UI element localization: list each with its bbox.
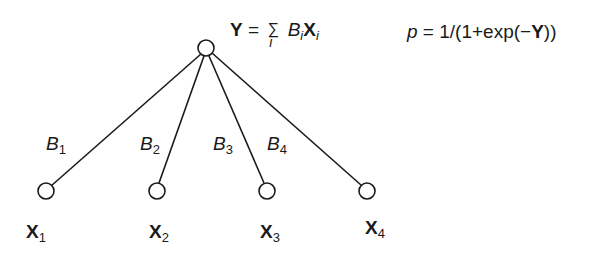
edge-b4 [212, 53, 361, 185]
edge-b2 [159, 56, 204, 183]
input-node-x2 [149, 183, 165, 199]
eq-x: X [303, 19, 316, 40]
edge-label-b2: B2 [140, 134, 160, 156]
input-node-x1 [38, 183, 54, 199]
sigma-symbol: ∑ i [266, 20, 280, 39]
sum-equation: Y = ∑ i BiXi [230, 20, 319, 42]
eq-b: B [288, 19, 301, 40]
edge-label-b1: B1 [46, 134, 66, 156]
node-label-x3: X3 [260, 222, 280, 244]
prob-equation: p = 1/(1+exp(−Y)) [407, 22, 557, 41]
eq-equals: = [248, 19, 259, 40]
input-node-x3 [259, 183, 275, 199]
prob-equals: = [423, 21, 434, 42]
edge-b1 [51, 54, 201, 186]
prob-expr-pre: 1/(1+exp(− [439, 21, 531, 42]
input-node-x4 [359, 183, 375, 199]
edge-label-b3: B3 [213, 134, 233, 156]
edge-label-b4: B4 [267, 134, 287, 156]
prob-p: p [407, 21, 418, 42]
prob-y: Y [531, 21, 544, 42]
node-label-x4: X4 [365, 218, 385, 240]
output-node-y [198, 40, 214, 56]
sum-index: i [269, 35, 272, 49]
node-label-x2: X2 [149, 222, 169, 244]
prob-expr-post: )) [544, 21, 557, 42]
node-label-x1: X1 [26, 222, 46, 244]
eq-y: Y [230, 19, 243, 40]
